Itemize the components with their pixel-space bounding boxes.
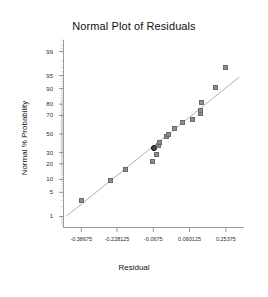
data-point[interactable] bbox=[123, 167, 128, 172]
data-point[interactable] bbox=[154, 152, 159, 157]
data-point[interactable] bbox=[166, 132, 171, 137]
y-axis-tick-label: 99 bbox=[31, 49, 53, 55]
y-axis-tick-label: 70 bbox=[31, 112, 53, 118]
data-point[interactable] bbox=[198, 108, 203, 113]
x-axis-tick-label: 0.25375 bbox=[204, 236, 248, 242]
data-point[interactable] bbox=[199, 100, 204, 105]
data-point[interactable] bbox=[180, 120, 185, 125]
y-axis-label-text: Normal % Probability bbox=[20, 78, 29, 198]
y-axis-label: Normal % Probability bbox=[8, 0, 17, 78]
y-axis-tick-label: 20 bbox=[31, 161, 53, 167]
plot-area-frame bbox=[63, 40, 244, 228]
y-axis-tick-label: 80 bbox=[31, 101, 53, 107]
chart-title: Normal Plot of Residuals bbox=[0, 20, 268, 32]
y-axis-tick-label: 95 bbox=[31, 73, 53, 79]
y-axis-tick-label: 10 bbox=[31, 176, 53, 182]
data-point[interactable] bbox=[79, 198, 84, 203]
y-axis-tick-label: 5 bbox=[31, 189, 53, 195]
y-axis-tick-label: 90 bbox=[31, 86, 53, 92]
y-axis-tick-label: 50 bbox=[31, 131, 53, 137]
y-axis-tick-label: 30 bbox=[31, 150, 53, 156]
data-point[interactable] bbox=[150, 159, 155, 164]
x-axis-label: Residual bbox=[0, 263, 268, 272]
y-axis-tick-label: 1 bbox=[31, 213, 53, 219]
data-point[interactable] bbox=[213, 85, 218, 90]
normal-probability-plot: Normal Plot of Residuals Normal % Probab… bbox=[0, 0, 268, 297]
data-point[interactable] bbox=[172, 126, 177, 131]
data-point[interactable] bbox=[190, 117, 195, 122]
x-axis-ticks bbox=[81, 228, 226, 232]
data-point[interactable] bbox=[223, 65, 228, 70]
data-point[interactable] bbox=[108, 178, 113, 183]
data-point[interactable] bbox=[157, 140, 162, 145]
